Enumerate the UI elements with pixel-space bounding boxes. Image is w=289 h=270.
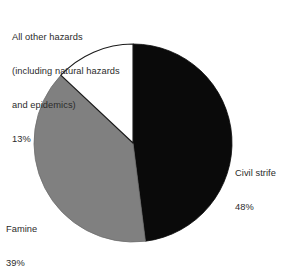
pie-slice-civil-strife[interactable] (133, 44, 232, 241)
pie-label-all-other-hazards-value: 13% (12, 134, 120, 145)
pie-label-all-other-hazards-line1: All other hazards (12, 32, 120, 43)
pie-label-famine-name: Famine (6, 224, 37, 235)
pie-label-famine-value: 39% (6, 258, 37, 269)
pie-label-all-other-hazards-line2: (including natural hazards (12, 66, 120, 77)
pie-label-all-other-hazards-line3: and epidemics) (12, 100, 120, 111)
pie-label-civil-strife: Civil strife 48% (235, 145, 276, 236)
pie-label-famine: Famine 39% (6, 201, 37, 270)
pie-label-civil-strife-value: 48% (235, 202, 276, 213)
pie-label-all-other-hazards: All other hazards (including natural haz… (12, 9, 120, 169)
pie-label-civil-strife-name: Civil strife (235, 168, 276, 179)
